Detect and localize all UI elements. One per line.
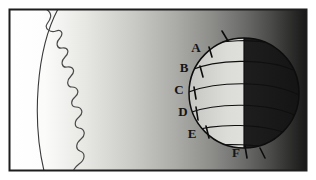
label-b: B xyxy=(180,60,189,75)
label-d: D xyxy=(178,104,187,119)
label-c: C xyxy=(174,82,183,97)
diagram-canvas: A B C D E F xyxy=(0,0,316,180)
illumination-diagram: A B C D E F xyxy=(0,0,316,180)
label-f: F xyxy=(232,145,240,160)
label-e: E xyxy=(188,126,197,141)
scene: A B C D E F xyxy=(9,9,307,171)
label-a: A xyxy=(191,40,201,55)
